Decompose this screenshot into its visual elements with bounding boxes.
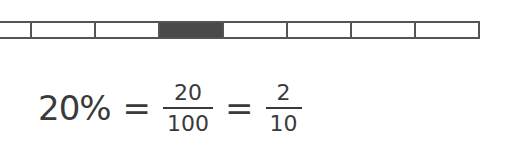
percent-value: 20% [38,88,111,128]
bar-cell [414,23,478,37]
fraction-2-10: 2 10 [266,82,302,135]
denominator: 100 [163,107,213,135]
bar-cell-shaded [158,23,222,37]
bar-cell [0,23,30,37]
bar-cell [350,23,414,37]
equals-sign: = [225,88,254,128]
numerator: 20 [170,82,206,107]
bar-cell [222,23,286,37]
bar-cell [94,23,158,37]
percent-equation: 20% = 20 100 = 2 10 [38,73,302,143]
bar-cell [30,23,94,37]
bar-cell [286,23,350,37]
denominator: 10 [266,107,302,135]
numerator: 2 [273,82,295,107]
equals-sign: = [123,88,152,128]
ten-part-bar [0,21,480,39]
fraction-20-100: 20 100 [163,82,213,135]
